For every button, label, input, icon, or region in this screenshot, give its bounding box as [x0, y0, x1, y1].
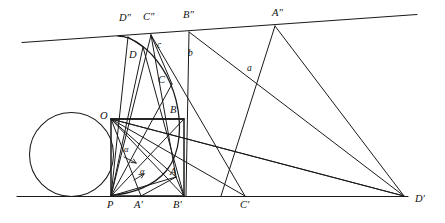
label-point-B-double-prime: B″ — [183, 10, 194, 21]
label-point-D: D — [129, 50, 137, 61]
label-point-O: O — [100, 111, 108, 122]
segment-d-dpp — [128, 37, 143, 47]
label-angle-alpha-upper: α — [124, 145, 128, 154]
side-a-line — [221, 26, 275, 196]
label-side-b: b — [188, 49, 193, 59]
geometry-figure: O P A B C D A′ B′ C′ D′ A″ B″ C″ D″ a b … — [0, 0, 445, 223]
label-side-a: a — [247, 64, 252, 74]
label-side-c: c — [157, 41, 161, 51]
label-point-A: A — [170, 167, 176, 178]
label-point-A-double-prime: A″ — [272, 8, 283, 19]
construction-circle — [30, 113, 114, 197]
side-b-to-dp — [189, 32, 404, 196]
label-point-D-double-prime: D″ — [119, 13, 131, 24]
side-a-to-dp — [275, 26, 404, 196]
tangent-line — [22, 15, 417, 43]
label-point-C: C — [158, 75, 165, 86]
ray-p-dpp — [111, 37, 128, 196]
label-point-C-double-prime: C″ — [143, 12, 154, 23]
label-point-B: B — [170, 105, 176, 116]
transversal-o-to-dp — [111, 119, 404, 196]
label-angle-alpha-lower: α — [140, 167, 144, 176]
label-point-B-prime: B′ — [173, 200, 182, 211]
ray-p-a — [111, 177, 176, 196]
label-point-C-prime: C′ — [240, 200, 249, 211]
label-point-P: P — [107, 200, 113, 211]
label-point-A-prime: A′ — [134, 200, 143, 211]
label-point-D-prime: D′ — [415, 194, 425, 205]
figure-canvas — [0, 0, 445, 223]
